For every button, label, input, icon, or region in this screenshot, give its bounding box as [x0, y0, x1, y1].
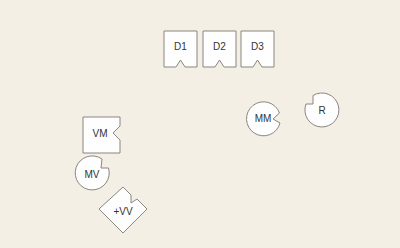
shape-vm[interactable]: VM [83, 117, 120, 153]
shape-mv-label: MV [85, 169, 100, 180]
shape-d1-label: D1 [174, 41, 187, 52]
diagram-canvas: D1 D2 D3 VM MM R MV +VV [0, 0, 400, 248]
shape-d2[interactable]: D2 [203, 31, 236, 67]
shape-mm[interactable]: MM [247, 102, 280, 136]
shape-vv-label: +VV [113, 206, 133, 217]
shape-d3[interactable]: D3 [241, 31, 274, 67]
shape-vv[interactable]: +VV [99, 187, 147, 233]
shape-r[interactable]: R [305, 93, 339, 127]
shape-d3-label: D3 [251, 41, 264, 52]
shape-r-label: R [318, 105, 325, 116]
shape-d2-label: D2 [213, 41, 226, 52]
shape-d1[interactable]: D1 [164, 31, 197, 67]
shape-mm-label: MM [255, 113, 272, 124]
shape-mv[interactable]: MV [75, 156, 109, 190]
shape-vm-label: VM [93, 128, 108, 139]
